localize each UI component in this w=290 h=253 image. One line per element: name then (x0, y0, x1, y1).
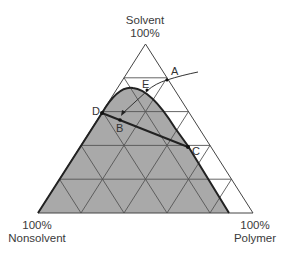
point-label-c: C (192, 145, 200, 157)
polymer-pct: 100% (228, 219, 282, 232)
point-c-marker (186, 145, 190, 149)
nonsolvent-pct: 100% (2, 219, 72, 232)
solvent-pct: 100% (115, 27, 175, 40)
point-label-b: B (116, 122, 123, 134)
nonsolvent-name: Nonsolvent (2, 232, 72, 245)
vertex-label-nonsolvent: 100% Nonsolvent (2, 219, 72, 245)
point-label-a: A (171, 65, 178, 77)
vertex-label-polymer: 100% Polymer (228, 219, 282, 245)
polymer-name: Polymer (228, 232, 282, 245)
point-a-marker (166, 79, 169, 82)
vertex-label-solvent: Solvent 100% (115, 14, 175, 40)
point-label-d: D (92, 105, 100, 117)
point-d-marker (100, 111, 104, 115)
two-phase-region (38, 88, 229, 213)
point-label-e: E (142, 78, 149, 90)
solvent-name: Solvent (115, 14, 175, 27)
